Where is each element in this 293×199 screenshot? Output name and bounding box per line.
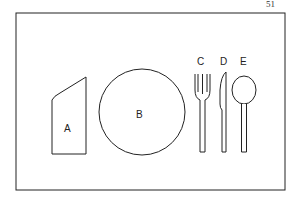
label-d: D [220,56,227,67]
page-number: 51 [266,0,275,9]
label-b: B [136,109,143,120]
fork: C [195,56,210,152]
label-e: E [240,56,247,67]
napkin: A [52,77,86,154]
place-setting-diagram: 51 A B C D E [0,0,293,199]
plate: B [99,69,185,155]
placemat-frame [16,13,285,190]
spoon: E [232,56,256,152]
label-a: A [64,123,71,134]
knife: D [220,56,227,152]
label-c: C [197,56,204,67]
